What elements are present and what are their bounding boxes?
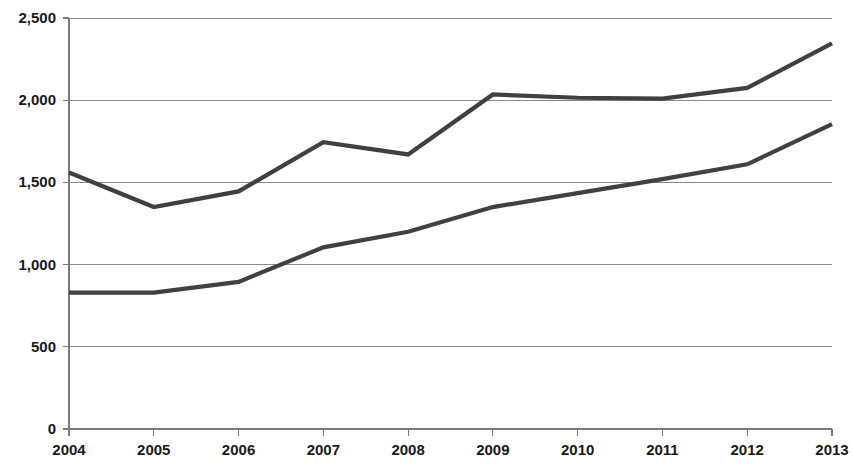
y-tick-label-2000: 2,000 bbox=[18, 91, 56, 108]
y-tick-label-0: 0 bbox=[48, 420, 56, 437]
x-axis-tick-labels: 2004200520062007200820092010201120122013 bbox=[52, 441, 848, 458]
x-tick-label-2006: 2006 bbox=[222, 441, 255, 458]
x-tick-label-2013: 2013 bbox=[815, 441, 848, 458]
y-tick-label-1000: 1,000 bbox=[18, 256, 56, 273]
data-series bbox=[69, 43, 832, 292]
x-tick-label-2009: 2009 bbox=[476, 441, 509, 458]
y-tick-label-500: 500 bbox=[31, 338, 56, 355]
y-axis-tick-labels: 05001,0001,5002,0002,500 bbox=[18, 9, 56, 437]
y-tick-label-1500: 1,500 bbox=[18, 173, 56, 190]
x-tick-label-2008: 2008 bbox=[391, 441, 424, 458]
gridlines bbox=[69, 18, 832, 429]
x-tick-label-2010: 2010 bbox=[561, 441, 594, 458]
x-tick-label-2004: 2004 bbox=[52, 441, 86, 458]
x-tick-label-2012: 2012 bbox=[731, 441, 764, 458]
y-tick-label-2500: 2,500 bbox=[18, 9, 56, 26]
y-axis-ticks bbox=[63, 18, 69, 429]
x-tick-label-2007: 2007 bbox=[307, 441, 340, 458]
x-tick-label-2005: 2005 bbox=[137, 441, 170, 458]
line-chart: 05001,0001,5002,0002,500 200420052006200… bbox=[0, 0, 853, 475]
chart-canvas: 05001,0001,5002,0002,500 200420052006200… bbox=[0, 0, 853, 475]
axes bbox=[63, 18, 832, 436]
x-tick-label-2011: 2011 bbox=[646, 441, 679, 458]
x-axis-ticks bbox=[69, 429, 832, 436]
series-line-2 bbox=[69, 124, 832, 293]
